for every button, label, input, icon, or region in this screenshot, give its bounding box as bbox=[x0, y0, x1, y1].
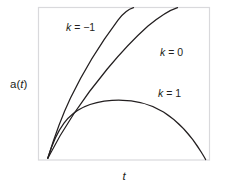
plot-canvas: k = −1 k = 0 k = 1 a(t) t bbox=[0, 0, 225, 188]
curve-label-k-one-value: = 1 bbox=[163, 87, 181, 99]
curve-label-k-minus-1: k = −1 bbox=[66, 21, 95, 33]
y-axis-label-text: a(t) bbox=[10, 78, 27, 90]
curve-label-k-minus-1-value: = −1 bbox=[71, 21, 95, 33]
curve-label-k-one: k = 1 bbox=[158, 87, 181, 99]
cosmological-scale-factor-figure: k = −1 k = 0 k = 1 a(t) t bbox=[0, 0, 225, 188]
y-axis-label-close-paren: ) bbox=[23, 78, 27, 90]
curve-label-k-minus-1-text: k = −1 bbox=[66, 21, 95, 33]
curve-label-k-zero: k = 0 bbox=[160, 46, 183, 58]
curve-label-k-zero-text: k = 0 bbox=[160, 46, 183, 58]
curve-label-k-one-text: k = 1 bbox=[158, 87, 181, 99]
curve-label-k-zero-value: = 0 bbox=[165, 46, 183, 58]
y-axis-label: a(t) bbox=[10, 78, 27, 90]
